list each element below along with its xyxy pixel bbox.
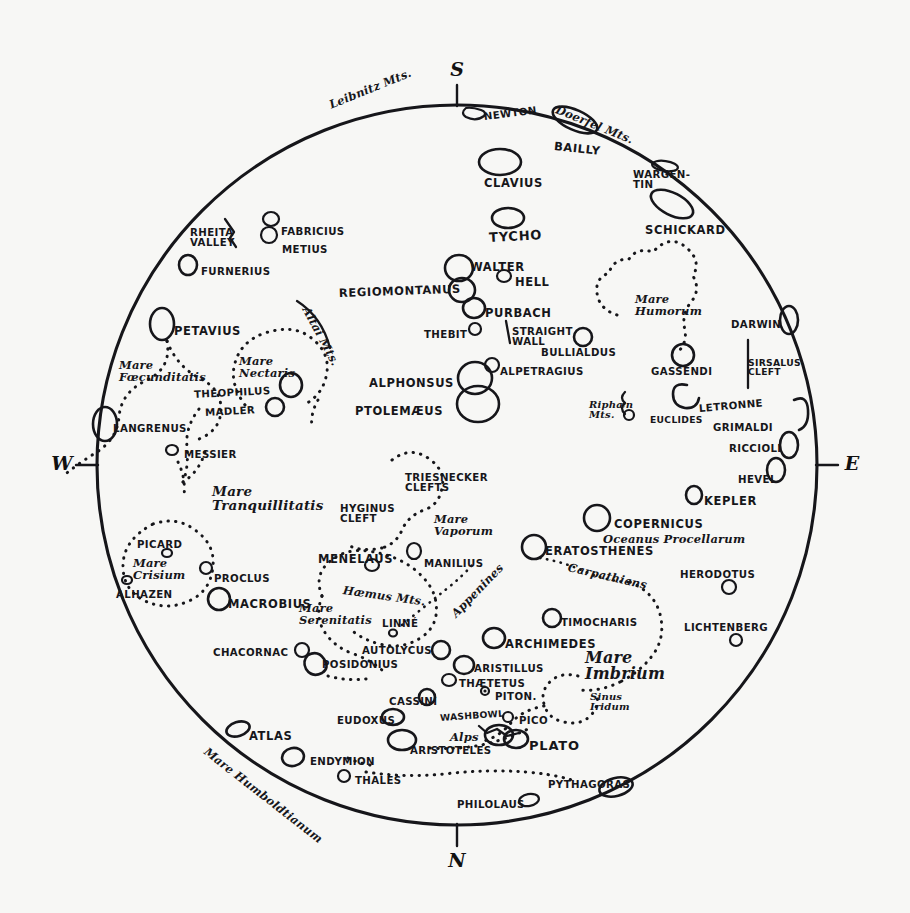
map-label-alhazen: ALHAZEN <box>116 590 172 601</box>
map-label-herodotus: HERODOTUS <box>680 570 755 581</box>
map-label-hevel: HEVEL <box>738 475 777 486</box>
map-label-picard: PICARD <box>137 540 182 551</box>
map-label-petavius: PETAVIUS <box>174 326 241 338</box>
map-label-lichtenberg: LICHTENBERG <box>684 623 768 634</box>
map-label-mare-foecunditatis: MareFœcunditatis <box>119 360 206 383</box>
map-label-wargentin: WARGEN-TIN <box>633 170 690 191</box>
map-label-kepler: KEPLER <box>704 496 757 508</box>
map-label-sirsalus-cleft: SIRSALUSCLEFT <box>748 358 801 377</box>
map-label-langrenus: LANGRENUS <box>113 424 187 435</box>
map-label-piton: PITON. <box>495 692 537 703</box>
map-label-cassini: CASSINI <box>389 697 437 708</box>
compass-south: S <box>450 60 464 80</box>
map-label-riccioli: RICCIOLI <box>729 444 782 455</box>
map-label-eratosthenes: ERATOSTHENES <box>545 546 654 558</box>
map-label-straight-wall: STRAIGHTWALL <box>512 327 573 348</box>
map-label-timocharis: TIMOCHARIS <box>561 618 637 629</box>
map-label-metius: METIUS <box>282 245 328 256</box>
map-label-tycho: TYCHO <box>489 228 543 244</box>
map-label-schickard: SCHICKARD <box>645 225 726 237</box>
map-label-thaetetus: THÆTETUS <box>459 679 525 690</box>
moon-map-svg: .ink { fill: none; stroke: #16161a; stro… <box>0 0 910 913</box>
map-label-aristillus: ARISTILLUS <box>474 664 544 675</box>
map-label-darwin: DARWIN <box>731 320 781 331</box>
map-label-bullialdus: BULLIALDUS <box>541 348 616 359</box>
map-label-mare-serenitatis: MareSerenitatis <box>299 603 372 626</box>
map-label-posidonius: POSIDONIUS <box>322 660 398 671</box>
map-label-hell: HELL <box>515 277 550 289</box>
map-label-archimedes: ARCHIMEDES <box>505 639 596 651</box>
map-label-autolycus: AUTOLYCUS <box>362 646 432 657</box>
map-label-alphonsus: ALPHONSUS <box>369 378 454 390</box>
map-label-thebit: THEBIT <box>424 330 467 341</box>
map-label-purbach: PURBACH <box>485 308 552 320</box>
map-label-eudoxus: EUDOXUS <box>337 716 395 727</box>
map-label-endymion: ENDYMION <box>310 757 375 768</box>
map-label-mare-imbrium: MareImbrium <box>585 650 665 683</box>
map-label-sinus-iridum: SinusIridum <box>590 692 630 712</box>
map-label-grimaldi: GRIMALDI <box>713 423 773 434</box>
map-label-rheita-valley: RHEITAVALLEY <box>190 228 235 249</box>
map-label-messier: MESSIER <box>184 450 237 461</box>
map-label-gassendi: GASSENDI <box>651 367 712 378</box>
map-label-pico: PICO <box>519 716 548 727</box>
map-label-manilius: MANILIUS <box>424 559 483 570</box>
map-label-mare-humorum: MareHumorum <box>635 294 702 317</box>
compass-west: W <box>51 454 72 474</box>
map-label-euclides: EUCLIDES <box>650 415 703 425</box>
moon-map-page: .ink { fill: none; stroke: #16161a; stro… <box>0 0 910 913</box>
compass-east: E <box>845 454 859 474</box>
map-label-linne: LINNÉ <box>382 619 418 630</box>
map-label-pythagoras: PYTHAGORAS <box>548 780 630 791</box>
map-label-walter: WALTER <box>470 262 525 274</box>
map-label-ptolemaeus: PTOLEMÆUS <box>355 406 443 418</box>
map-label-hyginus-cleft: HYGINUSCLEFT <box>340 504 395 525</box>
map-label-riphaen-mts: RiphænMts. <box>589 400 633 420</box>
map-label-alps: Alps <box>450 732 479 744</box>
map-label-thales: THALES <box>355 776 402 787</box>
map-label-mare-nectaris: MareNectaris <box>239 356 295 379</box>
map-label-mare-vaporum: MareVaporum <box>434 514 493 537</box>
map-label-alpetragius: ALPETRAGIUS <box>500 367 584 378</box>
map-label-plato: PLATO <box>529 739 580 753</box>
map-label-chacornac: CHACORNAC <box>213 648 288 659</box>
compass-north: N <box>448 851 465 871</box>
map-label-furnerius: FURNERIUS <box>201 267 270 278</box>
map-label-philolaus: PHILOLAUS <box>457 800 525 811</box>
map-label-menelaus: MENELAUS <box>318 554 393 566</box>
map-label-mare-crisium: MareCrisium <box>133 558 185 581</box>
map-label-atlas: ATLAS <box>249 731 292 743</box>
map-label-copernicus: COPERNICUS <box>614 519 703 531</box>
map-label-mare-tranquillitatis: MareTranquillitatis <box>212 485 323 513</box>
map-label-triesnecker-clefts: TRIESNECKERCLEFTS <box>405 473 488 494</box>
map-label-aristoteles: ARISTOTELES <box>410 746 492 757</box>
map-label-clavius: CLAVIUS <box>484 178 543 190</box>
map-label-proclus: PROCLUS <box>214 574 270 585</box>
map-label-fabricius: FABRICIUS <box>281 227 345 238</box>
